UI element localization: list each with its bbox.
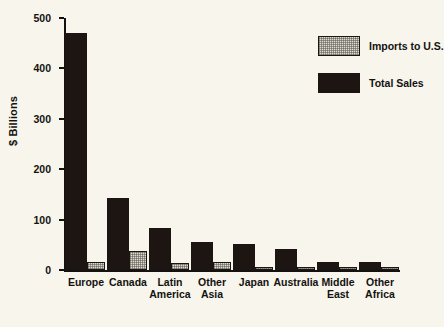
x-axis-label: OtherAfrica [353, 276, 407, 300]
bar-total-sales [65, 33, 87, 270]
bar-group [65, 18, 107, 270]
legend-swatch-total [318, 73, 360, 93]
y-tick-mark: 0 [59, 269, 64, 271]
legend-label: Total Sales [369, 77, 424, 89]
bar-imports-to-us [297, 267, 315, 270]
bar-imports-to-us [171, 263, 189, 270]
y-tick-label: 400 [33, 62, 51, 74]
bar-group [275, 18, 317, 270]
x-axis-label-line: Asia [185, 288, 239, 300]
bar-total-sales [275, 249, 297, 270]
y-axis-title: $ Billions [7, 61, 19, 181]
bar-imports-to-us [339, 267, 357, 270]
chart-legend: Imports to U.S.Total Sales [318, 36, 444, 110]
y-tick-mark: 400 [59, 67, 64, 69]
bar-total-sales [191, 242, 213, 270]
bar-total-sales [317, 262, 339, 270]
legend-label: Imports to U.S. [369, 40, 444, 52]
y-tick-label: 200 [33, 163, 51, 175]
legend-item: Total Sales [318, 73, 444, 93]
y-tick-label: 0 [45, 264, 51, 276]
bar-imports-to-us [255, 267, 273, 270]
y-tick-label: 100 [33, 214, 51, 226]
x-axis-label-line: Africa [353, 288, 407, 300]
x-axis-line [64, 270, 400, 272]
bar-imports-to-us [129, 251, 147, 270]
bar-group [107, 18, 149, 270]
y-tick-label: 500 [33, 12, 51, 24]
bar-group [233, 18, 275, 270]
bar-total-sales [149, 228, 171, 270]
y-tick-mark: 300 [59, 118, 64, 120]
bar-total-sales [233, 244, 255, 270]
bar-total-sales [107, 198, 129, 270]
y-tick-mark: 500 [59, 17, 64, 19]
bar-imports-to-us [213, 262, 231, 270]
x-axis-label-line: Other [353, 276, 407, 288]
bar-imports-to-us [87, 262, 105, 270]
legend-item: Imports to U.S. [318, 36, 444, 56]
y-tick-mark: 100 [59, 219, 64, 221]
y-tick-label: 300 [33, 113, 51, 125]
legend-swatch-imports [318, 36, 360, 56]
bar-group [191, 18, 233, 270]
bar-imports-to-us [381, 267, 399, 270]
y-tick-mark: 200 [59, 168, 64, 170]
bar-total-sales [359, 262, 381, 270]
bar-group [149, 18, 191, 270]
